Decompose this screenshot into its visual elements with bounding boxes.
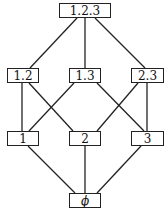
node-label: 2	[81, 133, 89, 145]
node-3: 3	[131, 131, 164, 146]
node-1-2-3: 1.2.3	[59, 3, 111, 18]
node-1-2: 1.2	[7, 68, 39, 83]
node-2-3: 2.3	[131, 68, 164, 83]
node-label: 1.2.3	[70, 5, 101, 17]
node-label: 1.3	[75, 70, 94, 82]
node-label: 2.3	[138, 70, 157, 82]
node-empty-set: ϕ	[69, 193, 101, 208]
node-1: 1	[7, 131, 39, 146]
edge-n13-n3	[97, 83, 144, 131]
node-label: 1.2	[13, 70, 32, 82]
node-label: 3	[144, 133, 152, 145]
edge-n123-n23	[95, 18, 145, 68]
node-2: 2	[69, 131, 101, 146]
node-label: 1	[19, 133, 27, 145]
edge-n1-nphi	[28, 146, 75, 193]
edge-layer	[0, 0, 168, 214]
edge-n3-nphi	[97, 146, 141, 193]
lattice-diagram: 1.2.3 1.2 1.3 2.3 1 2 3 ϕ	[0, 0, 168, 214]
edge-n123-n12	[30, 18, 77, 68]
node-label: ϕ	[81, 195, 89, 207]
node-1-3: 1.3	[69, 68, 101, 83]
